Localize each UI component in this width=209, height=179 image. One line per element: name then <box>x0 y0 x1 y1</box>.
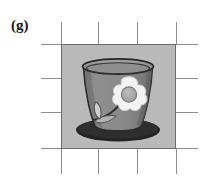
grid-tick-vertical-bottom-2 <box>98 149 99 174</box>
grid-tick-horizontal-left-1 <box>41 44 61 45</box>
grid-tick-vertical-top-4 <box>176 22 177 44</box>
grid-tick-vertical-top-3 <box>137 22 138 44</box>
subfigure-label: (g) <box>11 18 29 33</box>
grid-tick-vertical-bottom-1 <box>61 149 62 174</box>
grid-tick-horizontal-right-2 <box>176 78 198 79</box>
grid-tick-horizontal-left-3 <box>41 112 61 113</box>
grid-tick-vertical-bottom-4 <box>176 149 177 174</box>
grid-tick-vertical-bottom-3 <box>137 149 138 174</box>
grid-tick-horizontal-right-4 <box>176 148 198 149</box>
figure-root: (g) <box>0 0 209 179</box>
grid-tick-horizontal-right-3 <box>176 112 198 113</box>
grid-tick-horizontal-right-1 <box>176 44 198 45</box>
grid-tick-vertical-top-1 <box>61 22 62 44</box>
grid-tick-horizontal-left-2 <box>41 78 61 79</box>
grid-tick-horizontal-left-4 <box>41 148 61 149</box>
figure-image-panel <box>61 44 176 149</box>
grid-tick-vertical-top-2 <box>98 22 99 44</box>
pot-rim-inner <box>87 63 150 74</box>
flower-center <box>121 87 136 102</box>
flower-pot-illustration <box>61 44 176 149</box>
